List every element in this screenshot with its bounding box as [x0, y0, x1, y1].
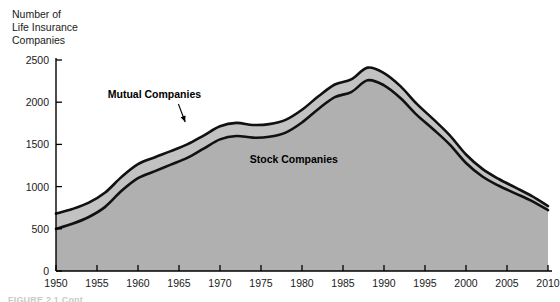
- x-tick-label: 2000: [454, 277, 478, 289]
- x-tick-label: 1965: [167, 277, 191, 289]
- y-tick-label: 0: [43, 265, 49, 277]
- x-tick-label: 1960: [126, 277, 150, 289]
- figure-caption: FIGURE 2.1 Cont: [8, 295, 83, 302]
- chart-title-line-2: Life Insurance: [12, 21, 78, 33]
- x-tick-label: 1975: [249, 277, 273, 289]
- x-tick-label: 1995: [413, 277, 437, 289]
- y-tick-label: 500: [31, 223, 49, 235]
- x-tick-label: 2010: [536, 277, 560, 289]
- chart-container: 05001000150020002500 1950195519601965197…: [0, 0, 560, 302]
- x-tick-label: 1970: [208, 277, 232, 289]
- chart-title-line-3: Companies: [12, 34, 65, 46]
- mutual-companies-label: Mutual Companies: [108, 88, 202, 100]
- y-tick-label: 1000: [26, 181, 50, 193]
- x-tick-label: 1950: [44, 277, 68, 289]
- y-tick-label: 2000: [26, 96, 50, 108]
- area-chart: 05001000150020002500 1950195519601965197…: [0, 0, 560, 302]
- y-tick-label: 1500: [26, 138, 50, 150]
- x-tick-label: 1980: [290, 277, 314, 289]
- x-tick-label: 1955: [85, 277, 109, 289]
- x-tick-label: 1985: [331, 277, 355, 289]
- x-tick-label: 2005: [495, 277, 519, 289]
- y-tick-label: 2500: [26, 54, 50, 66]
- chart-title-line-1: Number of: [12, 8, 61, 20]
- stock-companies-label: Stock Companies: [250, 153, 338, 165]
- x-tick-label: 1990: [372, 277, 396, 289]
